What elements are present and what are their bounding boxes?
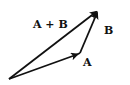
label-sum: A + B: [33, 19, 68, 30]
vector-addition-diagram: A + B B A: [0, 0, 130, 85]
vector-b-arrow: [80, 13, 97, 53]
vector-a-arrow: [9, 55, 77, 80]
vector-a-continuation: [76, 53, 80, 55]
label-a: A: [83, 57, 92, 68]
label-b: B: [104, 25, 113, 36]
vector-diagram-svg: [0, 0, 130, 85]
